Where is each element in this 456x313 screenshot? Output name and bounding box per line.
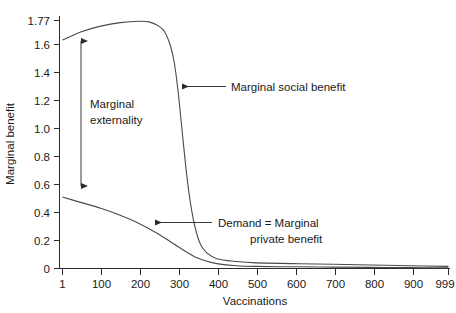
- demand-label-line2: private benefit: [250, 233, 323, 245]
- marginal-externality-label-line2: externality: [90, 114, 143, 126]
- x-tick-label: 300: [170, 278, 189, 290]
- x-tick-label: 999: [435, 278, 454, 290]
- x-tick-label: 200: [131, 278, 150, 290]
- y-tick-label: 1.6: [34, 39, 50, 51]
- y-tick-label: 0: [44, 263, 50, 275]
- x-tick-label: 700: [326, 278, 345, 290]
- marginal-social-benefit-label: Marginal social benefit: [231, 81, 346, 93]
- x-tick-label: 800: [365, 278, 384, 290]
- x-tick-label: 500: [248, 278, 267, 290]
- y-tick-label: 1.0: [34, 123, 50, 135]
- demand-label-line1: Demand = Marginal: [218, 217, 319, 229]
- x-tick-label: 1: [59, 278, 65, 290]
- y-tick-label: 1.4: [34, 67, 51, 79]
- chart-container: 0 0.2 0.4 0.6 0.8 1.0 1.2 1.4 1.6 1.77: [0, 0, 456, 313]
- x-tick-label: 900: [404, 278, 423, 290]
- y-tick-label: 0.8: [34, 151, 50, 163]
- y-tick-label: 0.2: [34, 235, 50, 247]
- y-tick-label: 0.4: [34, 207, 51, 219]
- y-tick-label: 1.2: [34, 95, 50, 107]
- y-tick-label: 1.77: [28, 15, 50, 27]
- x-tick-label: 400: [209, 278, 228, 290]
- x-tick-label: 600: [287, 278, 306, 290]
- chart-background: [0, 0, 456, 313]
- y-axis-title: Marginal benefit: [4, 102, 16, 185]
- y-tick-label: 0.6: [34, 179, 50, 191]
- x-axis-title: Vaccinations: [223, 295, 288, 307]
- marginal-benefit-chart: 0 0.2 0.4 0.6 0.8 1.0 1.2 1.4 1.6 1.77: [0, 0, 456, 313]
- marginal-externality-label-line1: Marginal: [90, 98, 134, 110]
- x-tick-label: 100: [92, 278, 111, 290]
